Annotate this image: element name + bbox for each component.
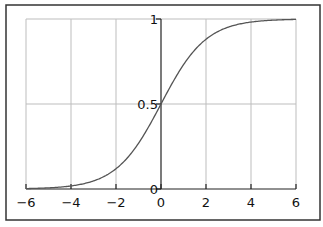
y-tick-labels: 00.51 <box>137 12 158 197</box>
x-tick-labels: −6−4−20246 <box>16 195 300 210</box>
x-tick-label: 0 <box>157 195 165 210</box>
y-tick-label: 1 <box>150 12 158 27</box>
x-tick-label: 2 <box>202 195 210 210</box>
x-tick-label: −6 <box>16 195 35 210</box>
x-tick-label: 4 <box>247 195 255 210</box>
x-tick-label: 6 <box>292 195 300 210</box>
y-tick-label: 0 <box>150 182 158 197</box>
x-tick-label: −2 <box>106 195 125 210</box>
x-tick-label: −4 <box>61 195 80 210</box>
y-tick-label: 0.5 <box>137 97 158 112</box>
sigmoid-chart: −6−4−20246 00.51 <box>0 0 323 227</box>
